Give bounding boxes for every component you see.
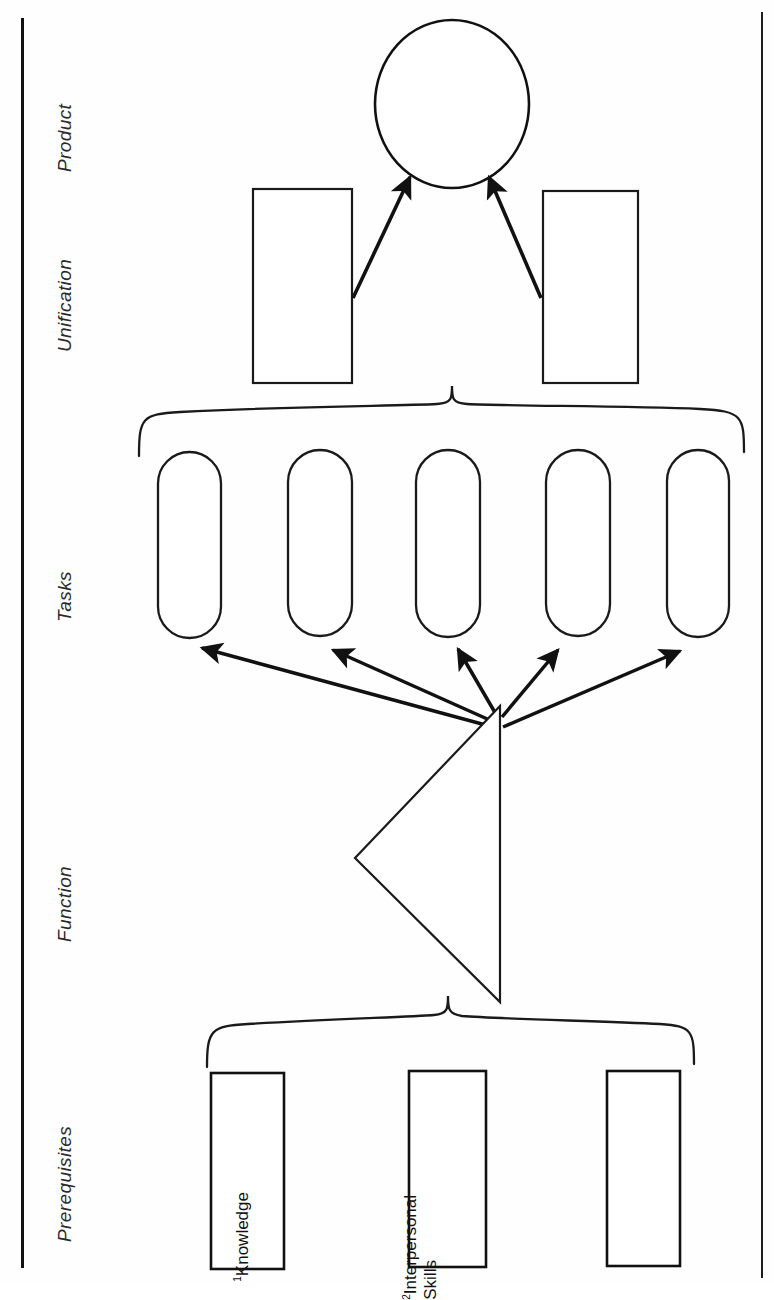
unification-box-1[interactable] — [253, 189, 352, 383]
arrow-function-to-task-3 — [458, 649, 497, 716]
arrow-function-to-task-1 — [202, 648, 493, 727]
function-triangle[interactable] — [355, 706, 500, 1002]
arrow-unification-2-to-product — [489, 177, 541, 298]
unification-box-2[interactable] — [543, 191, 638, 383]
brace-tasks — [139, 386, 744, 456]
prerequisite-marker-1: 1 — [232, 1276, 243, 1282]
prerequisite-label-1-line1: Knowledge — [233, 1192, 252, 1276]
arrow-unification-1-to-product — [353, 177, 410, 298]
prerequisite-marker-2: 2 — [400, 1294, 411, 1300]
product-ellipse[interactable] — [375, 20, 529, 188]
arrow-function-to-task-5 — [503, 651, 680, 727]
prerequisite-label-2: 2Interpersonal Skills — [400, 1195, 441, 1300]
prerequisite-label-1: 1Knowledge — [232, 1192, 253, 1282]
task-shape-4[interactable] — [546, 450, 610, 636]
prerequisite-label-2-line2: Skills — [421, 1195, 441, 1300]
task-shape-5[interactable] — [667, 450, 729, 637]
prerequisite-label-2-line1: Interpersonal — [401, 1195, 420, 1294]
arrow-function-to-task-2 — [333, 650, 494, 722]
prerequisite-box-3[interactable] — [607, 1071, 680, 1266]
task-shape-3[interactable] — [416, 450, 480, 637]
brace-prerequisites — [207, 996, 694, 1067]
task-shape-2[interactable] — [288, 450, 352, 636]
task-shape-1[interactable] — [158, 452, 221, 638]
